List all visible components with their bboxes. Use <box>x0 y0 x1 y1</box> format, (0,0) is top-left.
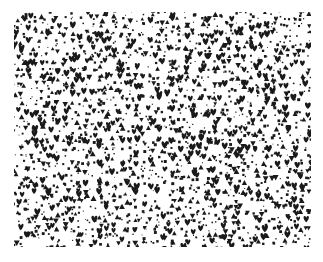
heart-glyph <box>242 67 247 73</box>
square-dot-glyph <box>307 154 310 157</box>
square-dot-glyph <box>22 73 25 76</box>
micro-dot-glyph <box>31 88 32 89</box>
square-dot-glyph <box>161 161 163 163</box>
square-dot-glyph <box>84 193 86 195</box>
triangle-up-glyph <box>259 198 263 201</box>
heart-glyph <box>127 137 132 143</box>
square-dot-glyph <box>274 115 276 117</box>
triangle-down-glyph <box>306 226 310 230</box>
micro-dot-glyph <box>148 66 149 67</box>
square-dot-glyph <box>127 67 130 70</box>
square-dot-glyph <box>263 134 265 136</box>
triangle-down-glyph <box>259 212 265 217</box>
square-dot-glyph <box>112 186 113 187</box>
square-dot-glyph <box>291 150 293 152</box>
square-dot-glyph <box>199 131 202 134</box>
micro-dot-glyph <box>300 135 301 136</box>
square-dot-glyph <box>204 88 207 91</box>
micro-dot-glyph <box>32 96 33 97</box>
triangle-down-glyph <box>278 84 283 89</box>
heart-glyph <box>16 107 20 112</box>
square-dot-glyph <box>188 105 190 107</box>
micro-dot-glyph <box>308 32 310 34</box>
heart-glyph <box>41 74 47 81</box>
square-dot-glyph <box>189 127 191 129</box>
micro-dot-glyph <box>246 116 247 117</box>
triangle-up-glyph <box>20 101 25 106</box>
heart-glyph <box>277 225 282 231</box>
heart-glyph <box>91 45 95 50</box>
square-dot-glyph <box>286 193 289 196</box>
square-dot-glyph <box>213 186 215 188</box>
triangle-down-glyph <box>261 88 267 93</box>
micro-dot-glyph <box>228 147 229 148</box>
triangle-up-glyph <box>108 52 112 56</box>
square-dot-glyph <box>130 158 132 160</box>
square-dot-glyph <box>308 90 310 92</box>
micro-dot-glyph <box>193 22 194 23</box>
square-dot-glyph <box>142 95 145 98</box>
micro-dot-glyph <box>141 166 142 167</box>
square-dot-glyph <box>127 245 130 247</box>
micro-dot-glyph <box>125 15 126 16</box>
square-dot-glyph <box>176 189 178 191</box>
heart-glyph <box>91 216 97 223</box>
micro-dot-glyph <box>85 229 86 230</box>
micro-dot-glyph <box>239 84 240 85</box>
square-dot-glyph <box>83 50 85 52</box>
triangle-up-glyph <box>103 218 108 223</box>
square-dot-glyph <box>172 79 174 81</box>
square-dot-glyph <box>259 59 261 61</box>
triangle-down-glyph <box>78 45 84 50</box>
square-dot-glyph <box>310 176 311 178</box>
heart-glyph <box>97 122 102 128</box>
triangle-down-glyph <box>80 199 84 203</box>
heart-glyph <box>293 145 298 151</box>
micro-dot-glyph <box>263 206 264 207</box>
square-dot-glyph <box>47 95 50 98</box>
heart-glyph <box>277 109 281 114</box>
micro-dot-glyph <box>21 24 22 25</box>
square-dot-glyph <box>183 176 185 178</box>
micro-dot-glyph <box>126 113 127 114</box>
square-dot-glyph <box>207 69 209 71</box>
triangle-up-glyph <box>172 231 177 235</box>
square-dot-glyph <box>199 147 201 149</box>
micro-dot-glyph <box>179 171 180 172</box>
micro-dot-glyph <box>247 101 248 102</box>
triangle-up-glyph <box>66 104 71 109</box>
square-dot-glyph <box>288 18 290 20</box>
square-dot-glyph <box>222 191 224 193</box>
triangle-up-glyph <box>83 97 89 102</box>
square-dot-glyph <box>105 237 107 239</box>
heart-glyph <box>17 54 21 59</box>
square-dot-glyph <box>143 23 145 25</box>
micro-dot-glyph <box>41 55 42 56</box>
square-dot-glyph <box>291 227 293 229</box>
square-dot-glyph <box>44 134 45 135</box>
square-dot-glyph <box>228 208 230 210</box>
heart-glyph <box>104 128 108 133</box>
square-dot-glyph <box>107 211 109 213</box>
triangle-down-glyph <box>175 221 180 226</box>
micro-dot-glyph <box>303 12 304 13</box>
square-dot-glyph <box>48 154 51 157</box>
micro-dot-glyph <box>38 237 39 238</box>
square-dot-glyph <box>287 214 289 216</box>
micro-dot-glyph <box>258 199 259 200</box>
square-dot-glyph <box>264 93 267 96</box>
square-dot-glyph <box>85 53 87 55</box>
micro-dot-glyph <box>90 99 91 100</box>
square-dot-glyph <box>234 89 237 92</box>
square-dot-glyph <box>79 41 81 43</box>
micro-dot-glyph <box>265 126 266 127</box>
square-dot-glyph <box>309 238 311 240</box>
triangle-up-glyph <box>105 232 109 236</box>
micro-dot-glyph <box>247 232 248 233</box>
square-dot-glyph <box>54 111 57 114</box>
square-dot-glyph <box>239 12 242 13</box>
heart-glyph <box>48 127 53 133</box>
heart-glyph <box>180 104 184 109</box>
square-dot-glyph <box>70 67 72 69</box>
heart-glyph <box>209 237 214 243</box>
